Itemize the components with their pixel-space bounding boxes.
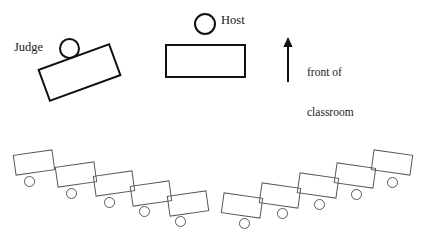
student-desk — [334, 162, 377, 188]
student-desk-rows — [0, 0, 427, 248]
student-desk — [259, 182, 302, 208]
student-desk — [297, 172, 340, 198]
student-desk — [13, 149, 56, 175]
judge-label: Judge — [14, 40, 43, 54]
student-seat-circle-icon — [24, 176, 35, 187]
student-seat-circle-icon — [314, 199, 325, 210]
student-desk — [55, 161, 98, 187]
student-desk — [371, 149, 414, 175]
student-seat-circle-icon — [139, 206, 150, 217]
front-of-classroom-arrow-icon — [281, 37, 295, 82]
judge-desk — [37, 43, 121, 102]
student-seat-circle-icon — [277, 208, 288, 219]
student-seat-circle-icon — [104, 197, 115, 208]
student-desk — [221, 192, 264, 218]
student-seat-circle-icon — [351, 189, 362, 200]
classroom-layout-diagram: Judge Host front of classroom — [0, 0, 427, 248]
student-desk — [130, 180, 173, 206]
front-of-classroom-label: front of classroom — [307, 40, 354, 146]
student-seat-circle-icon — [239, 218, 250, 229]
student-desk — [167, 190, 210, 216]
front-of-classroom-line-1: front of — [307, 66, 354, 79]
host-label: Host — [221, 13, 245, 27]
student-seat-circle-icon — [66, 188, 77, 199]
student-desk — [93, 170, 136, 196]
front-of-classroom-line-2: classroom — [307, 106, 354, 119]
host-head-circle-icon — [194, 13, 216, 35]
student-seat-circle-icon — [387, 177, 398, 188]
host-desk — [165, 44, 246, 78]
student-seat-circle-icon — [175, 216, 186, 227]
